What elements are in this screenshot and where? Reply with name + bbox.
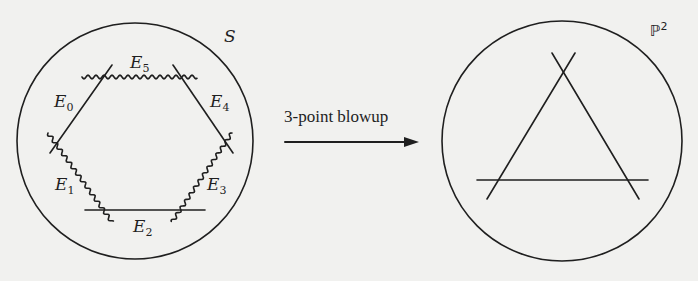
- surface-s: S E5 E0 E4 E1 E3 E2: [17, 23, 253, 259]
- surface-p2-label: ℙ2: [650, 20, 668, 40]
- label-e4: E4: [209, 91, 229, 114]
- line-right: [552, 53, 639, 199]
- blowup-arrow: 3-point blowup: [284, 107, 419, 147]
- surface-p2: ℙ2: [442, 20, 682, 261]
- label-e0: E0: [53, 91, 73, 114]
- blowup-diagram: S E5 E0 E4 E1 E3 E2 3-point blowup ℙ2: [0, 0, 698, 281]
- label-e3: E3: [206, 174, 226, 197]
- arrow-label: 3-point blowup: [284, 107, 388, 126]
- arrow-head-icon: [404, 137, 419, 147]
- label-e5: E5: [129, 52, 149, 75]
- line-left: [487, 53, 575, 199]
- surface-s-label: S: [224, 26, 236, 46]
- surface-p2-boundary: [442, 21, 682, 261]
- label-e1: E1: [54, 174, 74, 197]
- label-e2: E2: [132, 216, 152, 239]
- curve-e3: [171, 133, 232, 222]
